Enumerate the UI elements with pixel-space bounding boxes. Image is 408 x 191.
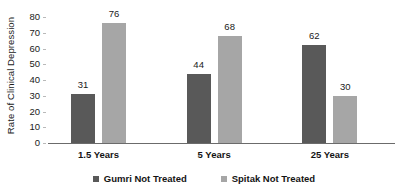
y-axis-tick-label: 20 (29, 105, 40, 119)
y-axis-tick-label: 40 (29, 73, 40, 87)
bar[interactable] (302, 45, 326, 143)
x-axis-category-label: 1.5 Years (78, 148, 119, 162)
x-axis-category-label: 25 Years (311, 148, 349, 162)
y-axis-tick-mark (43, 96, 46, 97)
bar[interactable] (333, 96, 357, 143)
bar[interactable] (71, 94, 95, 143)
x-axis-category-label: 5 Years (198, 148, 231, 162)
bar[interactable] (218, 36, 242, 143)
y-axis-tick-mark (43, 64, 46, 65)
y-axis-tick-label: 10 (29, 120, 40, 134)
bar[interactable] (102, 23, 126, 143)
plot-area: 317644686230 (48, 17, 395, 143)
y-axis-tick-mark (43, 49, 46, 50)
bar-chart: Rate of Clinical Depression 010203040506… (0, 0, 408, 191)
bar-group: 6230 (302, 17, 357, 143)
y-axis-tick-mark (43, 17, 46, 18)
bar[interactable] (187, 74, 211, 143)
bar-value-label: 68 (224, 21, 235, 33)
chart-legend: Gumri Not TreatedSpitak Not Treated (0, 171, 408, 187)
legend-item[interactable]: Gumri Not Treated (93, 172, 187, 186)
legend-item[interactable]: Spitak Not Treated (221, 172, 315, 186)
y-axis-tick-label: 0 (35, 136, 40, 150)
legend-item-label: Gumri Not Treated (104, 172, 187, 186)
y-axis-tick-label: 80 (29, 10, 40, 24)
bar-value-label: 44 (193, 59, 204, 71)
y-axis-tick-label: 50 (29, 57, 40, 71)
x-axis-line (48, 143, 395, 144)
y-axis-tick-label: 70 (29, 26, 40, 40)
y-axis-tick-mark (43, 112, 46, 113)
bar-value-label: 76 (109, 8, 120, 20)
legend-swatch-gumri-icon (93, 176, 99, 182)
y-axis-tick-label: 60 (29, 42, 40, 56)
x-axis-tick-labels: 1.5 Years5 Years25 Years (48, 148, 395, 162)
y-axis-tick-mark (43, 33, 46, 34)
legend-swatch-spitak-icon (221, 176, 227, 182)
bar-value-label: 30 (340, 81, 351, 93)
legend-item-label: Spitak Not Treated (232, 172, 315, 186)
y-axis-tick-mark (43, 80, 46, 81)
bar-group: 3176 (71, 17, 126, 143)
bar-value-label: 31 (78, 79, 89, 91)
bar-value-label: 62 (309, 30, 320, 42)
y-axis-tick-mark (43, 127, 46, 128)
y-axis: 01020304050607080 (0, 17, 46, 143)
y-axis-tick-label: 30 (29, 89, 40, 103)
bar-group: 4468 (187, 17, 242, 143)
y-axis-tick-mark (43, 143, 46, 144)
